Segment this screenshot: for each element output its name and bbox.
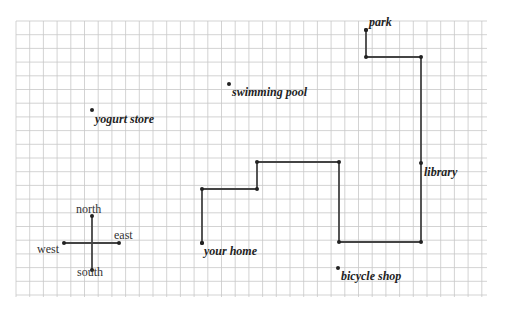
compass-west-label: west: [37, 243, 59, 255]
compass-dot: [62, 241, 66, 245]
route-vertex-dot: [200, 187, 204, 191]
route-vertex-dot: [337, 240, 341, 244]
compass-south-label: south: [77, 266, 103, 278]
compass-east-label: east: [114, 229, 133, 241]
label-park: park: [369, 16, 392, 28]
route-vertex-dot: [255, 187, 259, 191]
place-dot: [419, 161, 423, 165]
compass-north-label: north: [76, 203, 101, 215]
route-vertex-dot: [419, 55, 423, 59]
route-vertex-dot: [419, 240, 423, 244]
label-library: library: [424, 166, 457, 178]
place-dot: [364, 28, 368, 32]
label-your-home: your home: [204, 245, 257, 257]
route-vertex-dot: [364, 55, 368, 59]
label-yogurt-store: yogurt store: [95, 113, 154, 125]
map-canvas: [0, 0, 505, 314]
route-vertex-dot: [337, 160, 341, 164]
label-swimming-pool: swimming pool: [232, 86, 307, 98]
place-dot: [227, 82, 231, 86]
route-vertex-dot: [255, 160, 259, 164]
place-dot: [90, 108, 94, 112]
place-dot: [336, 266, 340, 270]
label-bicycle-shop: bicycle shop: [341, 270, 401, 282]
